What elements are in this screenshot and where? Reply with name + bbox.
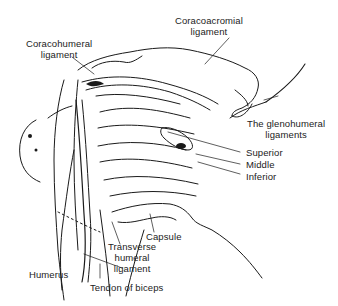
label-inferior: Inferior bbox=[246, 171, 276, 182]
label-middle: Middle bbox=[246, 159, 275, 170]
label-coracohumeral-ligament: Coracohumeral ligament bbox=[26, 38, 92, 60]
label-transverse-humeral-ligament: Transverse humeral ligament bbox=[108, 241, 156, 274]
label-coracoacromial-line1: Coracoacromial bbox=[175, 15, 243, 26]
label-transverse-line2: humeral bbox=[108, 252, 156, 263]
label-coracohumeral-line1: Coracohumeral bbox=[26, 38, 92, 49]
label-glenohumeral-ligaments: The glenohumeral ligaments bbox=[247, 118, 325, 140]
label-superior: Superior bbox=[246, 147, 283, 158]
label-coracoacromial-line2: ligament bbox=[175, 26, 243, 37]
label-glenohumeral-line1: The glenohumeral bbox=[247, 118, 325, 129]
label-transverse-line1: Transverse bbox=[108, 241, 156, 252]
label-coracoacromial-ligament: Coracoacromial ligament bbox=[175, 15, 243, 37]
label-transverse-line3: ligament bbox=[108, 263, 156, 274]
label-glenohumeral-line2: ligaments bbox=[247, 129, 325, 140]
label-humerus: Humerus bbox=[29, 269, 68, 280]
anatomy-diagram: Coracohumeral ligament Coracoacromial li… bbox=[0, 0, 338, 306]
label-tendon-of-biceps: Tendon of biceps bbox=[90, 282, 163, 293]
label-coracohumeral-line2: ligament bbox=[26, 49, 92, 60]
